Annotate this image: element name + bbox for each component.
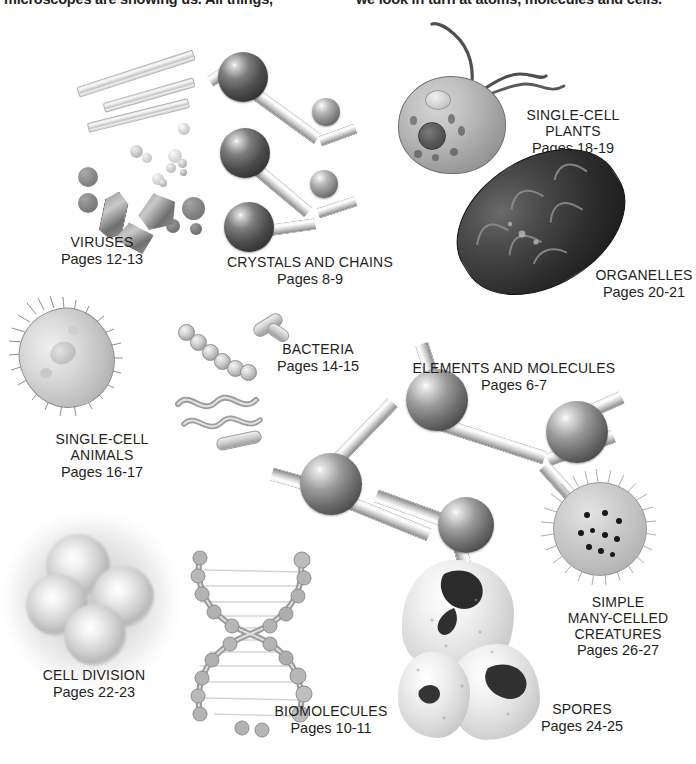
caption-title-spores: SPORES xyxy=(512,702,652,718)
caption-title-simple-many-celled-creatures-line2: MANY-CELLED xyxy=(546,611,690,627)
caption-spores: SPORES Pages 24-25 xyxy=(512,702,652,734)
caption-single-cell-animals: SINGLE-CELL ANIMALS Pages 16-17 xyxy=(32,432,172,480)
caption-title-single-cell-plants-line1: SINGLE-CELL xyxy=(498,108,648,124)
caption-cell-division: CELL DIVISION Pages 22-23 xyxy=(22,668,166,700)
caption-elements-and-molecules: ELEMENTS AND MOLECULES Pages 6-7 xyxy=(412,361,616,393)
caption-viruses: VIRUSES Pages 12-13 xyxy=(22,235,182,267)
caption-pages-crystals-and-chains: Pages 8-9 xyxy=(210,271,410,287)
cell-division-illustration xyxy=(16,530,166,670)
caption-pages-organelles: Pages 20-21 xyxy=(592,284,696,300)
caption-simple-many-celled-creatures: SIMPLE MANY-CELLED CREATURES Pages 26-27 xyxy=(546,595,690,659)
caption-pages-spores: Pages 24-25 xyxy=(512,718,652,734)
caption-title-organelles: ORGANELLES xyxy=(592,268,696,284)
caption-title-viruses: VIRUSES xyxy=(22,235,182,251)
caption-title-simple-many-celled-creatures-line1: SIMPLE xyxy=(546,595,690,611)
headline-right-fragment: we look in turn at atoms, molecules and … xyxy=(356,0,662,7)
caption-title-single-cell-plants-line2: PLANTS xyxy=(498,124,648,140)
crystals-and-chains-illustration xyxy=(200,40,380,255)
caption-title-single-cell-animals-line2: ANIMALS xyxy=(32,448,172,464)
caption-title-biomolecules: BIOMOLECULES xyxy=(256,704,406,720)
caption-title-single-cell-animals-line1: SINGLE-CELL xyxy=(32,432,172,448)
caption-pages-simple-many-celled-creatures: Pages 26-27 xyxy=(546,642,690,658)
caption-pages-biomolecules: Pages 10-11 xyxy=(256,720,406,736)
caption-biomolecules: BIOMOLECULES Pages 10-11 xyxy=(256,704,406,736)
contents-page: microscopes are showing us. All things, … xyxy=(0,0,696,764)
caption-pages-single-cell-animals: Pages 16-17 xyxy=(32,464,172,480)
caption-title-cell-division: CELL DIVISION xyxy=(22,668,166,684)
headline-left-fragment: microscopes are showing us. All things, xyxy=(4,0,273,7)
caption-pages-cell-division: Pages 22-23 xyxy=(22,684,166,700)
caption-crystals-and-chains: CRYSTALS AND CHAINS Pages 8-9 xyxy=(210,255,410,287)
caption-title-elements-and-molecules: ELEMENTS AND MOLECULES xyxy=(412,361,616,377)
single-cell-animals-illustration xyxy=(6,296,146,441)
caption-title-crystals-and-chains: CRYSTALS AND CHAINS xyxy=(210,255,410,271)
caption-pages-viruses: Pages 12-13 xyxy=(22,251,182,267)
caption-title-simple-many-celled-creatures-line3: CREATURES xyxy=(546,627,690,643)
caption-organelles: ORGANELLES Pages 20-21 xyxy=(592,268,696,300)
headline-strip: microscopes are showing us. All things, … xyxy=(0,0,696,13)
caption-pages-elements-and-molecules: Pages 6-7 xyxy=(412,377,616,393)
